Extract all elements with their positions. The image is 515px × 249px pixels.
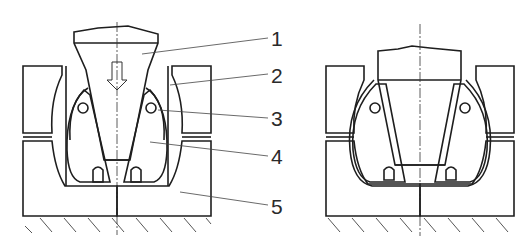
segment-right — [124, 90, 167, 182]
ball-upper-right-r — [460, 103, 470, 113]
callout-3: 3 — [271, 107, 283, 130]
ball-upper-left-r — [370, 103, 380, 113]
pin-lower-left — [93, 167, 103, 182]
leader-lines — [142, 38, 268, 205]
segment-left — [67, 90, 110, 182]
die-lower-right-r — [420, 141, 514, 216]
pin-lower-right — [131, 167, 141, 182]
die-lower-left-r — [326, 141, 420, 216]
ground-hatch-left — [25, 218, 211, 233]
die-upper-right — [172, 66, 211, 133]
left-view — [23, 22, 211, 235]
ring-arc-left — [70, 88, 88, 140]
die-cross-section-diagram: 1 2 3 4 5 — [0, 0, 515, 249]
pin-lower-left-r — [384, 167, 394, 180]
right-view — [326, 24, 514, 236]
pin-lower-right-r — [446, 167, 456, 180]
callout-4: 4 — [271, 145, 283, 168]
ball-upper-left — [78, 103, 88, 113]
ring-arc-right — [146, 88, 164, 140]
die-upper-left — [23, 66, 62, 133]
die-upper-left-r — [326, 66, 364, 133]
callout-2: 2 — [271, 64, 283, 87]
die-upper-right-r — [476, 66, 514, 133]
callout-1: 1 — [271, 27, 283, 50]
ground-hatch-right — [328, 218, 508, 232]
ball-upper-right — [146, 103, 156, 113]
callout-5: 5 — [271, 195, 283, 218]
